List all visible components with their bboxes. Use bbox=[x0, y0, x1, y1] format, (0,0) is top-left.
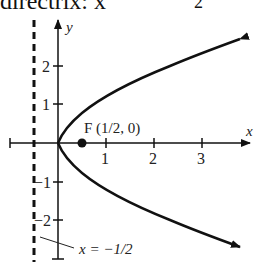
directrix-label: x = −1/2 bbox=[78, 241, 133, 257]
x-tick-1: 1 bbox=[101, 150, 109, 167]
y-tick-neg2: −2 bbox=[34, 212, 51, 229]
x-tick-3: 3 bbox=[197, 150, 205, 167]
focus-label: F (1/2, 0) bbox=[84, 120, 140, 137]
y-axis-label: y bbox=[64, 19, 73, 35]
focus-point bbox=[78, 139, 87, 148]
y-tick-neg1: −1 bbox=[34, 174, 51, 191]
y-tick-1: 1 bbox=[42, 96, 50, 113]
y-tick-2: 2 bbox=[42, 58, 50, 75]
y-axis bbox=[52, 20, 64, 259]
parabola-diagram: x 1 2 3 y 2 1 −1 −2 x = −1/2 F (1/2, 0) bbox=[0, 0, 254, 266]
directrix-leader-line bbox=[40, 237, 74, 248]
x-axis-label: x bbox=[245, 123, 253, 139]
x-axis bbox=[10, 138, 250, 148]
x-tick-2: 2 bbox=[149, 150, 157, 167]
